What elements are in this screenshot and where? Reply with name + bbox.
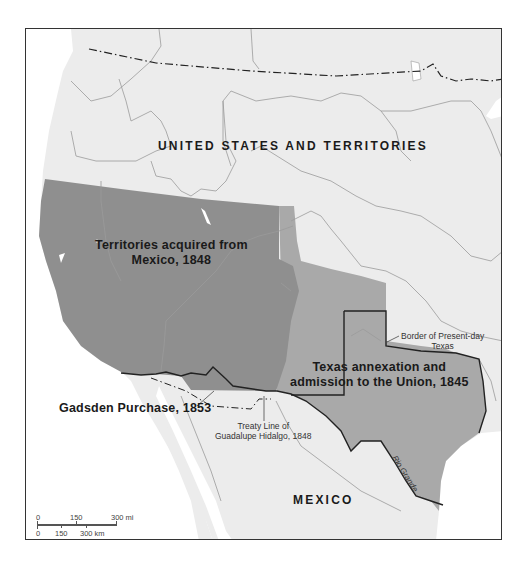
label-present-day-texas: Border of Present-day Texas bbox=[401, 331, 484, 351]
scale-bar: 0 150 300 mi 0 150 300 km bbox=[36, 513, 146, 540]
label-united-states: UNITED STATES AND TERRITORIES bbox=[158, 139, 428, 153]
label-treaty-line: Treaty Line of Guadalupe Hidalgo, 1848 bbox=[215, 421, 311, 441]
label-gadsden-purchase: Gadsden Purchase, 1853 bbox=[59, 401, 211, 415]
label-texas-line1: Texas annexation and bbox=[290, 360, 469, 375]
label-mexico: MEXICO bbox=[293, 493, 354, 507]
label-texas-line2: admission to the Union, 1845 bbox=[290, 375, 469, 390]
label-mexican-cession: Territories acquired from Mexico, 1848 bbox=[95, 238, 248, 268]
scale-km-150: 150 bbox=[55, 529, 68, 538]
label-texas-annexation: Texas annexation and admission to the Un… bbox=[290, 360, 469, 390]
scale-mi-300: 300 mi bbox=[111, 513, 134, 522]
label-present-texas-line1: Border of Present-day bbox=[401, 331, 484, 341]
label-mexican-cession-line1: Territories acquired from bbox=[95, 238, 248, 253]
scale-km-300: 300 km bbox=[80, 529, 105, 538]
scale-line bbox=[37, 524, 117, 526]
scale-km-0: 0 bbox=[36, 529, 40, 538]
label-treaty-line2: Guadalupe Hidalgo, 1848 bbox=[215, 431, 311, 441]
label-treaty-line1: Treaty Line of bbox=[215, 421, 311, 431]
map-frame: UNITED STATES AND TERRITORIES Territorie… bbox=[25, 28, 502, 540]
map-canvas bbox=[26, 29, 502, 540]
label-present-texas-line2: Texas bbox=[401, 341, 484, 351]
label-mexican-cession-line2: Mexico, 1848 bbox=[95, 253, 248, 268]
